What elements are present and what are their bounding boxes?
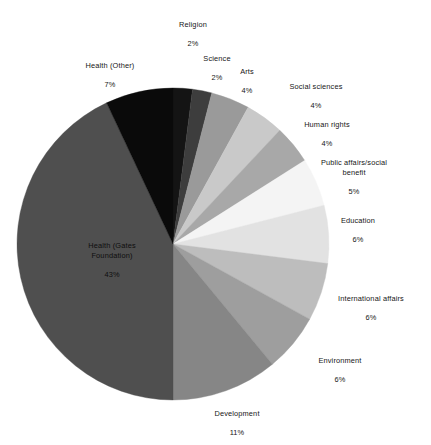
slice-label-development-name: Development [180,409,294,418]
slice-label-health-gates-foundation: Health (Gates Foundation) 43% [57,232,167,288]
slice-label-international-affairs: International affairs 6% [313,285,429,332]
slice-label-health-gates-foundation-value: 43% [57,270,167,279]
slice-label-human-rights-value: 4% [272,139,382,148]
slice-label-social-sciences-value: 4% [258,101,374,110]
slice-label-public-affairs-name: Public affairs/social benefit [288,158,420,177]
slice-label-social-sciences-name: Social sciences [258,82,374,91]
slice-label-health-gates-foundation-name: Health (Gates Foundation) [57,241,167,260]
slice-label-environment-name: Environment [288,356,392,365]
slice-label-health-other-value: 7% [55,80,165,89]
slice-label-health-other: Health (Other) 7% [55,52,165,99]
slice-label-human-rights-name: Human rights [272,120,382,129]
slice-label-environment-value: 6% [288,375,392,384]
slice-label-public-affairs-value: 5% [288,187,420,196]
slice-label-development-value: 11% [180,428,294,437]
slice-label-religion-name: Religion [143,20,243,29]
slice-label-education-value: 6% [310,235,406,244]
slice-label-education: Education 6% [310,207,406,254]
slice-label-international-affairs-value: 6% [313,313,429,322]
slice-label-international-affairs-name: International affairs [313,294,429,303]
slice-label-public-affairs: Public affairs/social benefit 5% [288,149,420,205]
pie-chart: Religion 2% Health (Other) 7% Science 2%… [0,0,431,445]
slice-label-development: Development 11% [180,400,294,445]
slice-label-health-other-name: Health (Other) [55,61,165,70]
slice-label-education-name: Education [310,216,406,225]
slice-label-environment: Environment 6% [288,347,392,394]
